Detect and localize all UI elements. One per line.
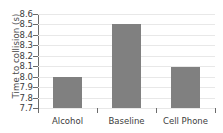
bars-group <box>38 14 215 108</box>
y-tick-label: 8.4 <box>1 31 33 39</box>
y-tick-mark <box>33 87 38 88</box>
x-tick-mark <box>97 108 98 113</box>
y-tick-label: 7.8 <box>1 94 33 102</box>
y-tick-mark <box>33 45 38 46</box>
y-tick-label: 8.5 <box>1 20 33 28</box>
y-tick-label: 7.9 <box>1 83 33 91</box>
gridline <box>38 108 215 109</box>
y-tick-label: 8.0 <box>1 73 33 81</box>
y-tick-label: 7.7 <box>1 104 33 112</box>
x-tick-mark <box>38 108 39 113</box>
y-tick-label: 8.1 <box>1 62 33 70</box>
y-axis-tick-labels: 7.77.87.98.08.18.28.38.48.58.6 <box>0 0 33 133</box>
y-tick-mark <box>33 24 38 25</box>
bar <box>53 77 82 108</box>
y-tick-mark <box>33 77 38 78</box>
x-tick-label: Cell Phone <box>146 116 223 126</box>
y-tick-mark <box>33 66 38 67</box>
y-tick-label: 8.6 <box>1 10 33 18</box>
x-tick-mark <box>215 108 216 113</box>
y-tick-label: 8.3 <box>1 41 33 49</box>
bar <box>171 67 200 108</box>
y-tick-mark <box>33 98 38 99</box>
bar <box>112 24 141 108</box>
x-tick-mark <box>156 108 157 113</box>
y-tick-mark <box>33 14 38 15</box>
y-tick-mark <box>33 56 38 57</box>
plot-area <box>38 14 215 108</box>
y-tick-label: 8.2 <box>1 52 33 60</box>
bar-chart: Time to collision (s) 7.77.87.98.08.18.2… <box>0 0 222 133</box>
y-tick-mark <box>33 35 38 36</box>
y-tick-mark <box>33 108 38 109</box>
